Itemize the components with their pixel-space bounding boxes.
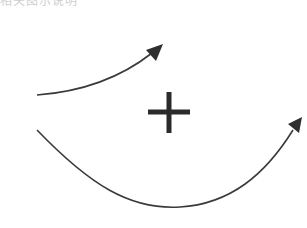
diagram-canvas <box>0 0 307 228</box>
plus-icon <box>148 92 190 133</box>
upper-curved-arrow-icon <box>37 44 163 95</box>
